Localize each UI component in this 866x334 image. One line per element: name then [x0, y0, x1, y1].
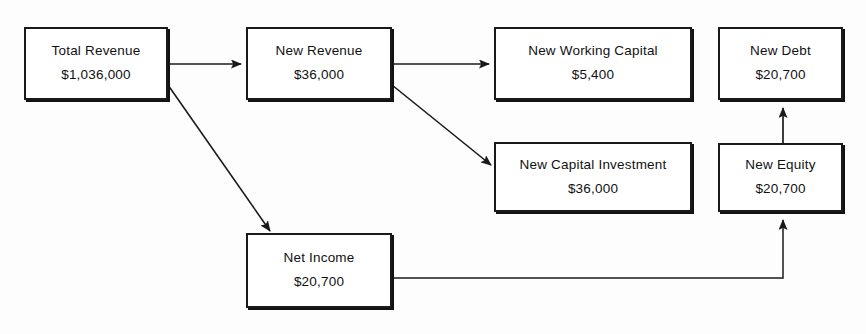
node-total-revenue[interactable]: Total Revenue $1,036,000	[24, 27, 168, 100]
node-value: $20,700	[755, 68, 805, 83]
node-new-revenue[interactable]: New Revenue $36,000	[246, 27, 392, 100]
edge-total-revenue-to-net-income	[168, 85, 270, 231]
node-label: Total Revenue	[52, 44, 141, 59]
node-label: New Debt	[750, 44, 811, 59]
node-new-equity[interactable]: New Equity $20,700	[718, 143, 843, 212]
edge-new-revenue-to-new-capital-investment	[392, 85, 491, 165]
node-label: Net Income	[283, 251, 354, 266]
node-net-income[interactable]: Net Income $20,700	[246, 233, 392, 308]
node-value: $1,036,000	[61, 68, 131, 83]
node-label: New Revenue	[276, 44, 363, 59]
node-label: New Capital Investment	[520, 158, 667, 173]
edge-net-income-to-new-equity	[392, 220, 783, 278]
node-new-working-capital[interactable]: New Working Capital $5,400	[494, 27, 692, 100]
node-new-capital-investment[interactable]: New Capital Investment $36,000	[494, 142, 692, 212]
node-value: $36,000	[568, 182, 618, 197]
node-value: $20,700	[294, 275, 344, 290]
node-label: New Working Capital	[528, 44, 658, 59]
node-value: $5,400	[572, 68, 615, 83]
node-new-debt[interactable]: New Debt $20,700	[718, 27, 843, 100]
diagram-canvas: Total Revenue $1,036,000 New Revenue $36…	[0, 0, 866, 334]
node-value: $20,700	[755, 182, 805, 197]
node-label: New Equity	[745, 158, 815, 173]
node-value: $36,000	[294, 68, 344, 83]
